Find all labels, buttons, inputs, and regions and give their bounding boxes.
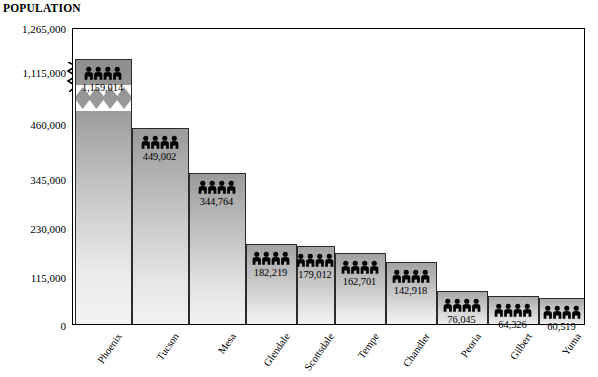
y-tick-345000: 345,000: [30, 174, 66, 186]
people-group-icon: [296, 253, 334, 267]
people-group-icon: [392, 269, 430, 283]
y-axis-tick-labels: 1,265,000 1,115,000 460,000 345,000 230,…: [0, 0, 68, 377]
bar-value-phoenix: 1,159,014: [63, 82, 143, 93]
x-tick-scottsdale: Scottsdale: [302, 331, 336, 373]
x-tick-mesa: Mesa: [215, 331, 237, 356]
people-group-icon: [543, 305, 581, 319]
people-group-icon: [198, 180, 236, 194]
x-tick-yuma: Yuma: [559, 331, 582, 357]
x-tick-gilbert: Gilbert: [507, 331, 533, 362]
people-group-icon: [141, 135, 179, 149]
x-tick-tucson: Tucson: [154, 331, 181, 362]
y-tick-1115000: 1,115,000: [22, 67, 66, 79]
x-tick-chandler: Chandler: [400, 331, 431, 369]
bar-phoenix[interactable]: [75, 59, 132, 324]
people-group-icon: [252, 251, 290, 265]
x-tick-tempe: Tempe: [355, 331, 380, 361]
bar-value-tucson: 449,002: [120, 151, 200, 162]
x-tick-peoria: Peoria: [458, 331, 482, 359]
y-tick-1265000: 1,265,000: [22, 23, 66, 35]
y-tick-0: 0: [61, 320, 67, 332]
people-group-icon: [341, 260, 379, 274]
bar-value-chandler: 142,918: [371, 285, 451, 296]
x-tick-glendale: Glendale: [261, 331, 292, 368]
people-group-icon: [84, 66, 122, 80]
y-tick-230000: 230,000: [30, 223, 66, 235]
x-tick-phoenix: Phoenix: [95, 331, 124, 366]
y-tick-460000: 460,000: [30, 119, 66, 131]
bar-value-yuma: 60,519: [522, 321, 598, 332]
people-group-icon: [443, 298, 481, 312]
bar-fill: [76, 60, 131, 324]
bar-value-mesa: 344,764: [177, 196, 257, 207]
y-tick-115000: 115,000: [31, 272, 66, 284]
people-group-icon: [494, 303, 532, 317]
